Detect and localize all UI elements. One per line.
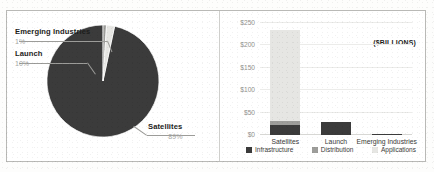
legend-label: Infrastructure [255, 146, 293, 153]
figure-container: Emerging Industries 1% Launch 10% Satell… [0, 0, 434, 172]
bar-chart-panel: ($BILLIONS) $250$200$150$100$50$0Satelli… [219, 11, 428, 161]
y-axis-tick-label: $100 [240, 86, 255, 93]
figure-frame: Emerging Industries 1% Launch 10% Satell… [6, 10, 426, 162]
bar-chart-plot: $250$200$150$100$50$0SatellitesLaunchEme… [260, 23, 412, 135]
y-axis-tick-label: $50 [244, 108, 255, 115]
bar-satellites [270, 30, 300, 135]
y-axis-tick-label: $150 [240, 63, 255, 70]
legend-item-infrastructure: Infrastructure [246, 146, 293, 153]
bar-segment-infrastructure [321, 122, 351, 135]
y-axis-tick-label: $0 [248, 131, 255, 138]
bar-segment-infrastructure [270, 125, 300, 135]
bar-segment-infrastructure [372, 134, 402, 135]
pie-callout-label: Satellites [148, 123, 182, 131]
y-axis-tick-label: $250 [240, 19, 255, 26]
pie-callout-label: Launch [15, 50, 43, 58]
x-axis-label: Emerging Industries [356, 138, 416, 145]
pie-callout-percent: 1% [15, 38, 90, 45]
pie-callout-satellites: Satellites 89% [148, 123, 182, 141]
bar-emerging-industries [372, 134, 402, 135]
legend-label: Applications [381, 146, 416, 153]
gridline: $250 [260, 22, 412, 23]
pie-chart-panel: Emerging Industries 1% Launch 10% Satell… [7, 11, 219, 161]
bar-launch [321, 122, 351, 135]
pie-callout-label: Emerging Industries [15, 28, 90, 36]
x-axis-label: Satellites [272, 138, 300, 145]
pie-callout-percent: 89% [148, 133, 182, 140]
x-axis-label: Launch [325, 138, 347, 145]
y-axis-tick-label: $200 [240, 41, 255, 48]
legend-swatch [312, 147, 318, 153]
pie-callout-launch: Launch 10% [15, 50, 43, 68]
pie-callout-percent: 10% [15, 60, 43, 67]
legend-swatch [372, 147, 378, 153]
bar-segment-applications [270, 30, 300, 121]
legend-item-applications: Applications [372, 146, 416, 153]
legend-item-distribution: Distribution [312, 146, 354, 153]
pie-callout-emerging-industries: Emerging Industries 1% [15, 28, 90, 46]
legend-swatch [246, 147, 252, 153]
bar-chart-legend: Infrastructure Distribution Applications [246, 146, 416, 153]
legend-label: Distribution [321, 146, 354, 153]
